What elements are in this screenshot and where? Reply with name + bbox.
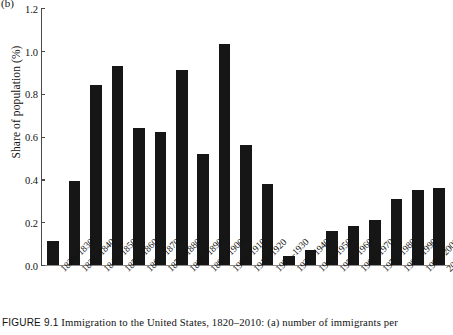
x-axis-tick-label: 1891–1900 [208, 266, 216, 274]
bar-slot [64, 8, 85, 265]
bar [47, 241, 59, 265]
bar-slot [235, 8, 256, 265]
x-axis-tick-label: 1871–1880 [165, 266, 173, 274]
x-axis-tick-label: 1851–1860 [122, 266, 130, 274]
x-axis-tick-label: 1961–1970 [358, 266, 366, 274]
bar-slot [321, 8, 342, 265]
y-axis-tick: 0.2 [25, 213, 41, 231]
y-axis-tick: 1.2 [25, 0, 41, 17]
x-axis-tick-label: 1951–1960 [337, 266, 345, 274]
bar-slot [171, 8, 192, 265]
figure-panel-b: (b) Share of population (%) 0.00.20.40.6… [0, 0, 453, 335]
bar-slot [407, 8, 428, 265]
bar-slot [193, 8, 214, 265]
x-axis-tick-label: 1971–1980 [380, 266, 388, 274]
bar [176, 70, 188, 265]
x-axis-tick-label: 1820–1830 [58, 266, 66, 274]
bar-slot [300, 8, 321, 265]
y-axis-tick-label: 0.6 [25, 132, 38, 143]
bar-slot [42, 8, 63, 265]
x-axis-tick-label: 1991–2000 [423, 266, 431, 274]
bar [112, 66, 124, 265]
y-axis-title: Share of population (%) [10, 17, 22, 187]
bar-slot [278, 8, 299, 265]
x-axis-tick-label: 1841–1850 [101, 266, 109, 274]
x-axis-tick-label: 1831–1840 [79, 266, 87, 274]
figure-caption-text: Immigration to the United States, 1820–2… [61, 316, 398, 328]
y-axis-tick-label: 0.0 [25, 261, 38, 272]
figure-number: FIGURE 9.1 [2, 317, 58, 328]
bar-slot [343, 8, 364, 265]
bar-series [42, 8, 450, 265]
y-axis-tick: 1.0 [25, 42, 41, 60]
x-axis-tick-label: 1921–1930 [273, 266, 281, 274]
panel-label: (b) [1, 0, 14, 9]
x-axis-tick-label: 1931–1940 [294, 266, 302, 274]
x-axis-tick-label: 2001–2010 [444, 266, 452, 274]
x-axis-tick-label: 1901–1910 [230, 266, 238, 274]
bar-slot [107, 8, 128, 265]
bar-slot [150, 8, 171, 265]
bar-slot [429, 8, 450, 265]
y-axis-tick: 0.4 [25, 170, 41, 188]
bar-slot [386, 8, 407, 265]
y-axis-tick: 0.0 [25, 256, 41, 274]
bar-slot [214, 8, 235, 265]
x-axis-tick-label: 1911–1920 [251, 266, 259, 274]
y-axis-tick-label: 0.2 [25, 218, 38, 229]
y-axis-tick-label: 1.0 [25, 47, 38, 58]
y-axis-tick: 0.6 [25, 128, 41, 146]
bar-slot [128, 8, 149, 265]
figure-caption: FIGURE 9.1 Immigration to the United Sta… [2, 316, 453, 329]
y-axis-tick-label: 1.2 [25, 4, 38, 15]
y-axis-tick-label: 0.4 [25, 175, 38, 186]
x-axis-tick-label: 1981–1990 [401, 266, 409, 274]
bar [219, 44, 231, 265]
bar-slot [85, 8, 106, 265]
bar [90, 85, 102, 265]
y-axis-tick-label: 0.8 [25, 89, 38, 100]
x-axis-tick-label: 1941–1950 [316, 266, 324, 274]
y-axis-tick: 0.8 [25, 85, 41, 103]
bar-slot [364, 8, 385, 265]
x-axis-tick-label: 1881–1890 [187, 266, 195, 274]
plot-area: 0.00.20.40.60.81.01.2 [41, 8, 450, 266]
bar-slot [257, 8, 278, 265]
x-axis-ticks: 1820–18301831–18401841–18501851–18601861… [41, 266, 450, 312]
x-axis-tick-label: 1861–1870 [144, 266, 152, 274]
